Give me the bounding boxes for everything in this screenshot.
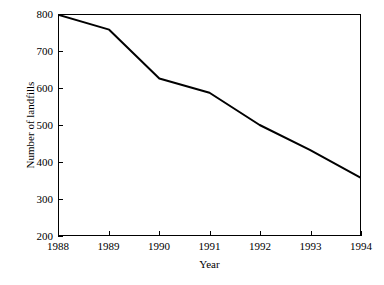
x-tick-label: 1990 <box>139 239 179 253</box>
data-series-line <box>59 15 360 177</box>
y-tick-mark <box>58 14 63 15</box>
y-tick-label: 300 <box>25 193 53 206</box>
y-tick-label: 800 <box>25 8 53 21</box>
x-tick-mark <box>109 231 110 236</box>
y-tick-mark <box>58 236 63 237</box>
x-tick-mark <box>361 231 362 236</box>
y-tick-label: 600 <box>25 82 53 95</box>
y-tick-mark <box>58 199 63 200</box>
line-chart-figure: Number of landfills 20030040050060070080… <box>0 0 384 285</box>
x-tick-label: 1989 <box>89 239 129 253</box>
x-tick-mark <box>58 231 59 236</box>
y-tick-mark <box>58 125 63 126</box>
x-tick-mark <box>210 231 211 236</box>
x-axis-title: Year <box>58 258 361 270</box>
x-tick-label: 1988 <box>38 239 78 253</box>
x-tick-mark <box>260 231 261 236</box>
x-tick-mark <box>159 231 160 236</box>
data-line-svg <box>59 15 360 235</box>
y-tick-mark <box>58 88 63 89</box>
y-tick-label: 500 <box>25 119 53 132</box>
x-tick-label: 1991 <box>190 239 230 253</box>
x-tick-label: 1992 <box>240 239 280 253</box>
y-tick-mark <box>58 51 63 52</box>
plot-area <box>58 14 361 236</box>
x-tick-label: 1993 <box>291 239 331 253</box>
x-tick-mark <box>311 231 312 236</box>
y-tick-label: 400 <box>25 156 53 169</box>
x-tick-label: 1994 <box>341 239 381 253</box>
y-tick-mark <box>58 162 63 163</box>
y-tick-label: 700 <box>25 45 53 58</box>
